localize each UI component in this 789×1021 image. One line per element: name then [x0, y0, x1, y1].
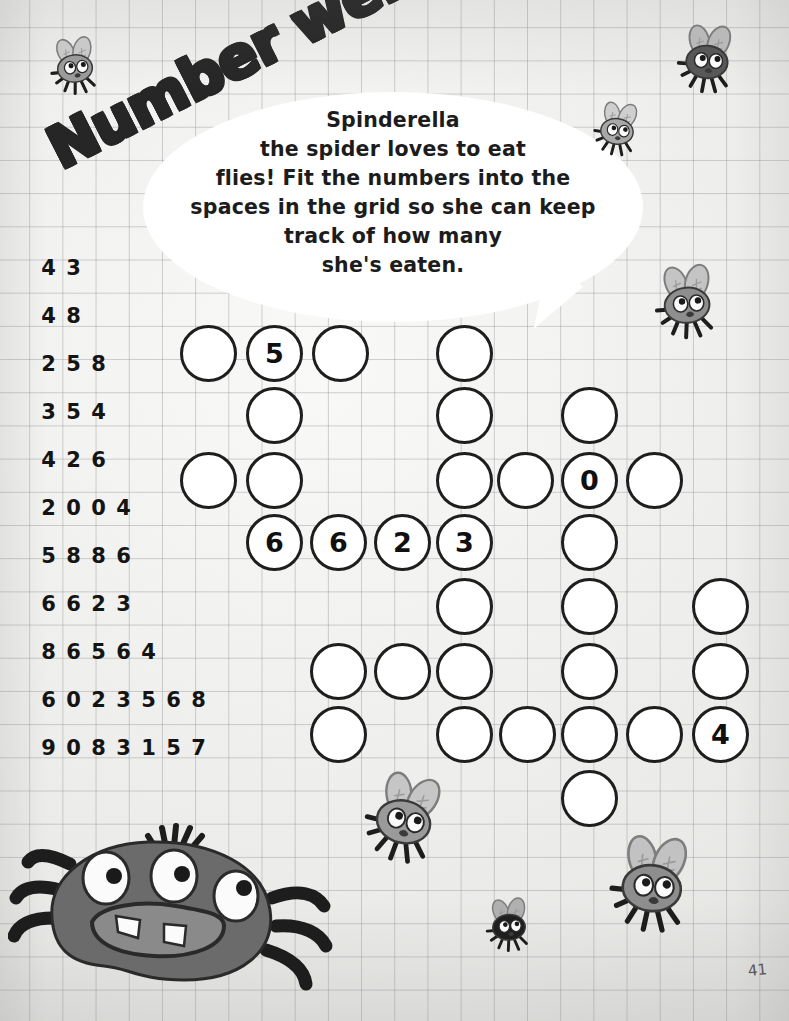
fly-bottom-right [591, 826, 714, 945]
grid-cell-empty[interactable] [497, 452, 554, 509]
fly-icon [642, 259, 731, 345]
grid-cell-empty[interactable] [626, 452, 683, 509]
fly-icon [591, 826, 713, 941]
grid-cell-empty[interactable] [374, 643, 431, 700]
grid-cell-filled[interactable]: 2 [374, 514, 431, 571]
fly-top-left [39, 32, 112, 105]
page-number: 41 [747, 960, 768, 980]
grid-cell-filled[interactable]: 0 [561, 452, 618, 509]
fly-icon [39, 32, 111, 101]
grid-cell-empty[interactable] [561, 770, 618, 827]
grid-cell-empty[interactable] [436, 706, 493, 763]
grid-cell-filled[interactable]: 4 [692, 706, 749, 763]
grid-cell-empty[interactable] [499, 706, 556, 763]
grid-cell-filled[interactable]: 3 [436, 514, 493, 571]
fly-icon [476, 894, 542, 956]
grid-cell-empty[interactable] [312, 325, 369, 382]
fly-right-upper [642, 259, 732, 349]
grid-cell-empty[interactable] [692, 643, 749, 700]
fly-bottom-small [476, 894, 542, 960]
fly-icon [583, 96, 652, 162]
grid-cell-empty[interactable] [310, 706, 367, 763]
grid-cell-empty[interactable] [180, 325, 237, 382]
grid-cell-empty[interactable] [692, 578, 749, 635]
grid-cell-empty[interactable] [561, 706, 618, 763]
grid-cell-empty[interactable] [561, 387, 618, 444]
grid-cell-filled[interactable]: 6 [246, 514, 303, 571]
speech-bubble-text: Spinderella the spider loves to eat flie… [163, 106, 623, 280]
grid-cell-empty[interactable] [436, 643, 493, 700]
grid-cell-empty[interactable] [561, 514, 618, 571]
grid-cell-filled[interactable]: 6 [310, 514, 367, 571]
grid-cell-empty[interactable] [436, 452, 493, 509]
grid-cell-empty[interactable] [561, 578, 618, 635]
spider-spinderella [8, 818, 338, 1003]
grid-cell-empty[interactable] [246, 452, 303, 509]
grid-cell-empty[interactable] [436, 325, 493, 382]
fly-bubble-edge [582, 96, 652, 166]
grid-cell-empty[interactable] [310, 643, 367, 700]
grid-cell-empty[interactable] [436, 578, 493, 635]
puzzle-page: Number web Spinderella the spider loves … [0, 0, 789, 1021]
grid-cell-empty[interactable] [246, 387, 303, 444]
grid-cell-empty[interactable] [180, 452, 237, 509]
spider-icon [8, 818, 338, 1003]
fly-top-right [665, 19, 748, 102]
grid-cell-empty[interactable] [561, 643, 618, 700]
grid-cell-empty[interactable] [436, 387, 493, 444]
grid-cell-empty[interactable] [626, 706, 683, 763]
grid-cell-filled[interactable]: 5 [246, 325, 303, 382]
fly-icon [666, 19, 749, 98]
